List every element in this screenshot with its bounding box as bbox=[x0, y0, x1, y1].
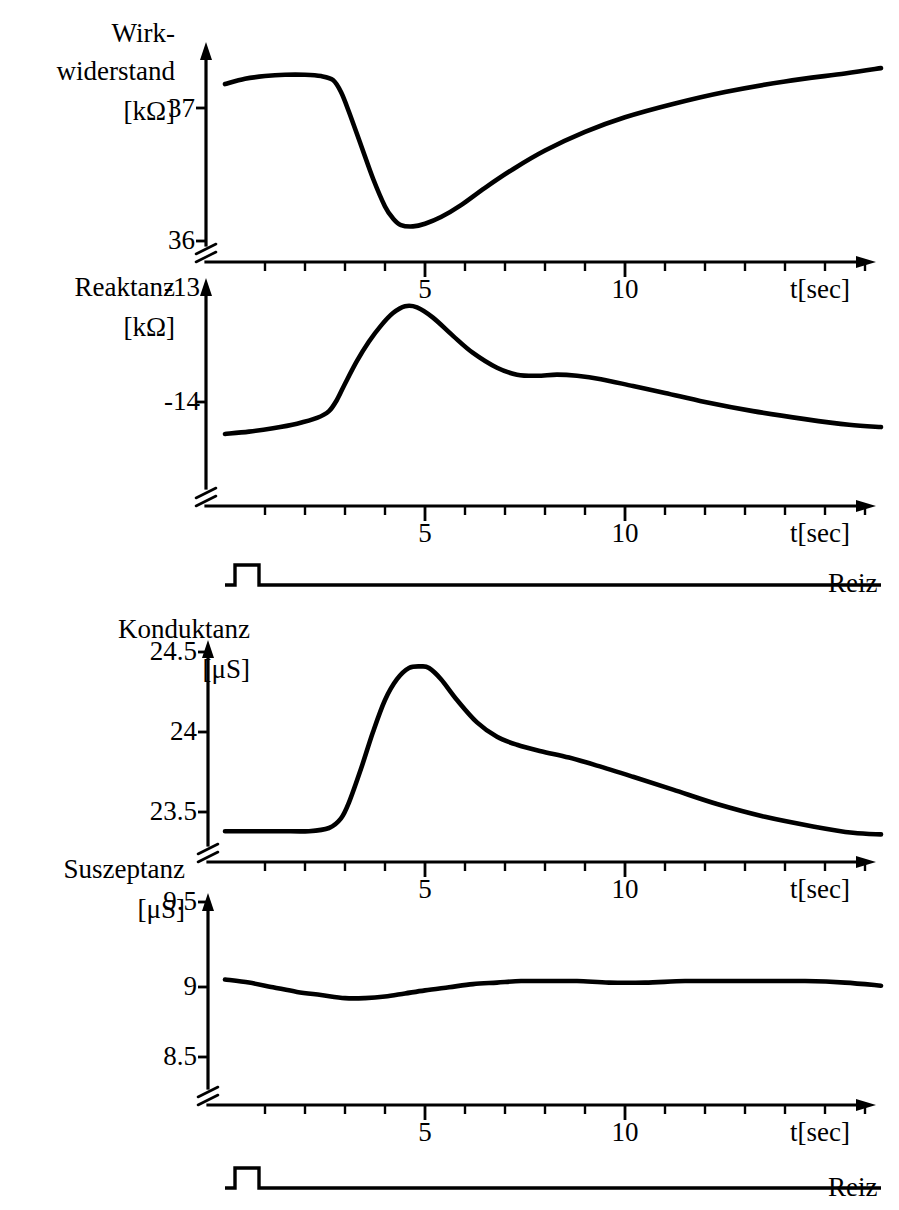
panel1-ylabel-line1: Wirk- bbox=[112, 18, 175, 48]
panel4-data-curve bbox=[225, 980, 881, 999]
panel2-y-axis-arrowhead bbox=[200, 278, 212, 296]
panel-wirkwiderstand: Wirk- widerstand [kΩ] 37 36 5 10 t[sec] bbox=[57, 18, 881, 304]
stimulus-pulse-lower bbox=[225, 1168, 881, 1188]
panel4-xtick-label-5: 5 bbox=[418, 1117, 432, 1147]
panel2-x-ticks bbox=[265, 506, 865, 521]
panel4-xaxis-title: t[sec] bbox=[790, 1117, 850, 1147]
panel4-ylabel: Suszeptanz bbox=[64, 854, 185, 884]
panel-konduktanz: Konduktanz [μS] 24.5 24 23.5 5 10 t[sec] bbox=[118, 614, 881, 904]
panel4-ytick-label-85: 8.5 bbox=[163, 1041, 197, 1071]
panel2-data-curve bbox=[225, 306, 881, 434]
panel2-ytick-label-neg14: -14 bbox=[164, 386, 200, 416]
panel2-yunit: [kΩ] bbox=[123, 312, 175, 342]
panel1-x-ticks bbox=[265, 262, 865, 277]
panel4-ytick-label-95: 9.5 bbox=[163, 886, 197, 916]
stimulus-trace-lower: Reiz bbox=[225, 1168, 881, 1202]
panel3-xaxis-title: t[sec] bbox=[790, 874, 850, 904]
panel1-ytick-label-37: 37 bbox=[168, 93, 195, 123]
panel1-ytick-label-36: 36 bbox=[168, 225, 195, 255]
stimulus-label-upper: Reiz bbox=[828, 568, 877, 598]
stimulus-label-lower: Reiz bbox=[828, 1172, 877, 1202]
panel1-ylabel-line2: widerstand bbox=[57, 56, 176, 86]
panel3-yunit: [μS] bbox=[203, 654, 250, 684]
panel3-ytick-label-24: 24 bbox=[170, 716, 198, 746]
panel2-ylabel: Reaktanz bbox=[75, 272, 175, 302]
panel4-ytick-label-9: 9 bbox=[184, 971, 198, 1001]
panel1-xaxis-title: t[sec] bbox=[790, 274, 850, 304]
panel1-y-axis-arrowhead bbox=[200, 42, 212, 60]
panel-reaktanz: Reaktanz [kΩ] -13 -14 5 10 t[sec] bbox=[75, 272, 881, 548]
panel1-xtick-label-10: 10 bbox=[612, 274, 639, 304]
panel3-ytick-label-245: 24.5 bbox=[150, 636, 197, 666]
panel1-data-curve bbox=[225, 68, 881, 226]
stimulus-trace-upper: Reiz bbox=[225, 565, 881, 598]
panel3-data-curve bbox=[225, 666, 881, 834]
panel2-xaxis-title: t[sec] bbox=[790, 518, 850, 548]
panel3-xtick-label-5: 5 bbox=[418, 874, 432, 904]
panel2-xtick-label-5: 5 bbox=[418, 518, 432, 548]
panel3-ytick-label-235: 23.5 bbox=[150, 796, 197, 826]
panel4-x-ticks bbox=[265, 1105, 865, 1120]
panel4-xtick-label-10: 10 bbox=[612, 1117, 639, 1147]
panel3-x-ticks bbox=[265, 862, 865, 877]
panel-suszeptanz: Suszeptanz [μS] 9.5 9 8.5 5 10 t[sec] bbox=[64, 854, 881, 1147]
four-panel-impedance-figure: Wirk- widerstand [kΩ] 37 36 5 10 t[sec] … bbox=[0, 0, 899, 1210]
stimulus-pulse-upper bbox=[225, 565, 881, 585]
panel2-ytick-label-neg13: -13 bbox=[164, 272, 200, 302]
panel2-xtick-label-10: 10 bbox=[612, 518, 639, 548]
panel3-xtick-label-10: 10 bbox=[612, 874, 639, 904]
panel1-xtick-label-5: 5 bbox=[418, 274, 432, 304]
